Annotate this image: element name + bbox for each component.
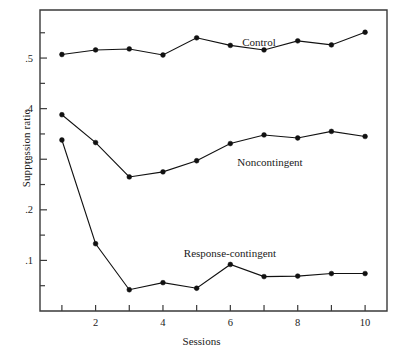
data-point-marker: [363, 134, 368, 139]
data-point-marker: [329, 271, 334, 276]
data-point-marker: [329, 43, 334, 48]
data-point-marker: [363, 271, 368, 276]
y-tick-label: .5: [25, 53, 33, 64]
x-tick-labels: 246810: [93, 317, 370, 328]
data-point-marker: [93, 48, 98, 53]
data-point-marker: [228, 141, 233, 146]
series-control: [60, 30, 368, 58]
x-axis-title: Sessions: [0, 335, 403, 347]
data-point-marker: [228, 43, 233, 48]
data-point-marker: [194, 35, 199, 40]
x-tick-label: 8: [295, 317, 300, 328]
series-line: [62, 115, 365, 177]
annotation-noncontingent: Noncontingent: [237, 156, 302, 168]
data-point-marker: [295, 274, 300, 279]
data-point-marker: [262, 274, 267, 279]
x-tick-label: 4: [160, 317, 166, 328]
data-point-marker: [363, 30, 368, 35]
data-point-marker: [60, 52, 65, 57]
y-tick-label: .1: [25, 255, 33, 266]
data-point-marker: [161, 280, 166, 285]
data-point-marker: [127, 47, 132, 52]
data-point-marker: [127, 175, 132, 180]
axes-group: [40, 10, 387, 311]
series-response-contingent: [60, 138, 368, 293]
data-point-marker: [161, 53, 166, 58]
data-point-marker: [329, 129, 334, 134]
data-point-marker: [262, 133, 267, 138]
ticks-group: [40, 33, 365, 311]
annotation-response-contingent: Response-contingent: [184, 247, 276, 259]
data-point-marker: [295, 38, 300, 43]
data-point-marker: [93, 241, 98, 246]
data-point-marker: [295, 136, 300, 141]
x-tick-label: 2: [93, 317, 98, 328]
data-point-marker: [60, 138, 65, 143]
data-point-marker: [161, 169, 166, 174]
data-point-marker: [127, 287, 132, 292]
chart-svg: .1.2.3.4.5 246810 ControlNoncontingentRe…: [0, 0, 403, 354]
data-point-marker: [60, 112, 65, 117]
x-tick-label: 10: [360, 317, 371, 328]
x-tick-label: 6: [228, 317, 233, 328]
y-axis-title: Suppression ratio: [20, 78, 32, 218]
data-point-marker: [93, 140, 98, 145]
series-line: [62, 140, 365, 290]
data-point-marker: [262, 48, 267, 53]
plot-frame: [40, 10, 387, 311]
series-line: [62, 32, 365, 55]
data-point-marker: [194, 158, 199, 163]
annotation-control: Control: [242, 36, 276, 48]
series-annotations: ControlNoncontingentResponse-contingent: [184, 36, 303, 259]
data-point-marker: [194, 286, 199, 291]
figure-container: .1.2.3.4.5 246810 ControlNoncontingentRe…: [0, 0, 403, 354]
series-noncontingent: [60, 112, 368, 179]
data-point-marker: [228, 262, 233, 267]
